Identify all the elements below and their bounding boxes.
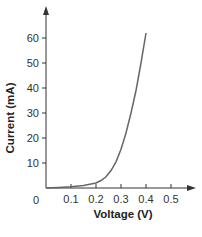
y-tick-label: 20	[27, 132, 39, 144]
y-tick-label: 50	[27, 57, 39, 69]
y-tick-label: 30	[27, 107, 39, 119]
x-tick-label: 0.4	[138, 193, 153, 205]
x-tick-label: 0.5	[163, 193, 178, 205]
y-axis-arrow-icon	[43, 6, 49, 15]
x-tick-label: 0.3	[113, 193, 128, 205]
x-ticks: 0.10.20.30.40.5	[63, 184, 178, 205]
x-axis-arrow-icon	[187, 185, 196, 191]
y-tick-label: 10	[27, 157, 39, 169]
x-axis-title: Voltage (V)	[93, 208, 152, 220]
origin-label: 0	[33, 194, 39, 206]
x-tick-label: 0.1	[63, 193, 78, 205]
y-tick-label: 60	[27, 32, 39, 44]
y-axis-title: Current (mA)	[4, 82, 16, 153]
iv-curve	[46, 33, 146, 188]
y-tick-label: 40	[27, 82, 39, 94]
x-tick-label: 0.2	[88, 193, 103, 205]
y-ticks: 102030405060	[27, 32, 46, 169]
iv-chart: 102030405060 0.10.20.30.40.5 0 Voltage (…	[0, 0, 202, 237]
